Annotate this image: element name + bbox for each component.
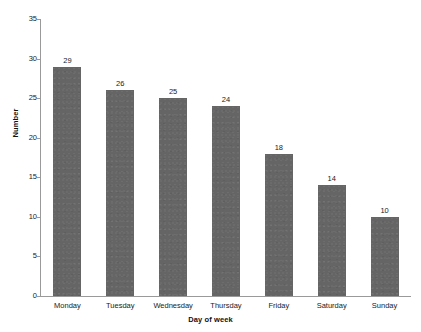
- bar-group: 29: [41, 19, 94, 296]
- bar-value-label: 10: [380, 206, 388, 215]
- bar-group: 18: [252, 19, 305, 296]
- x-axis-title: Day of week: [0, 315, 421, 324]
- bar-value-label: 25: [169, 87, 177, 96]
- bar-value-label: 29: [63, 56, 71, 65]
- bar: [53, 67, 81, 297]
- y-axis-tick-label: 0: [24, 292, 37, 300]
- y-axis-tick-mark: [37, 138, 40, 139]
- bar: [106, 90, 134, 296]
- bar: [159, 98, 187, 296]
- y-axis-tick-label: 10: [24, 213, 37, 221]
- y-axis-tick-mark: [37, 59, 40, 60]
- y-axis-tick-mark: [37, 177, 40, 178]
- bar-value-label: 18: [275, 143, 283, 152]
- bar-chart: Number 05101520253035 29262524181410 Mon…: [0, 0, 421, 332]
- bar-group: 26: [94, 19, 147, 296]
- y-axis-tick-mark: [37, 217, 40, 218]
- y-axis-tick-label: 15: [24, 173, 37, 181]
- bar: [318, 185, 346, 296]
- plot-area: 29262524181410: [41, 19, 411, 296]
- y-axis-tick-mark: [37, 98, 40, 99]
- bar-value-label: 14: [328, 174, 336, 183]
- y-axis-tick-label: 30: [24, 55, 37, 63]
- bar: [265, 154, 293, 296]
- y-axis-tick-label: 35: [24, 15, 37, 23]
- y-axis-tick-label: 5: [24, 252, 37, 260]
- bar: [371, 217, 399, 296]
- bar-value-label: 26: [116, 79, 124, 88]
- y-axis-tick-mark: [37, 256, 40, 257]
- bar-group: 25: [147, 19, 200, 296]
- y-axis-tick-label: 20: [24, 134, 37, 142]
- y-axis-tick-label: 25: [24, 94, 37, 102]
- bar-group: 24: [200, 19, 253, 296]
- y-axis-tick-mark: [37, 296, 40, 297]
- bar: [212, 106, 240, 296]
- bar-group: 10: [358, 19, 411, 296]
- y-axis-title: Number: [11, 124, 20, 138]
- bar-value-label: 24: [222, 95, 230, 104]
- y-axis-tick-mark: [37, 19, 40, 20]
- bar-group: 14: [305, 19, 358, 296]
- x-axis-tick-label: Sunday: [345, 301, 421, 310]
- x-axis-line: [40, 296, 411, 297]
